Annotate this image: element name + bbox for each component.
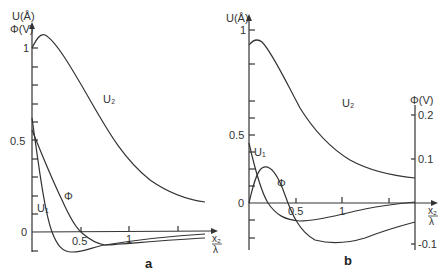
panel-a-label-u1: U₁ <box>37 202 49 214</box>
panel-a-x-axis <box>32 231 212 232</box>
panel-b-label-phi: Φ <box>277 177 286 189</box>
panel-b-curve-u2 <box>249 40 415 178</box>
panel-b-curve-u1 <box>249 143 415 221</box>
panel-a: U(Å) Φ(V) 1 0.5 0 0.5 1 x₂ λ U₂ U₁ Φ a <box>10 10 222 271</box>
panel-a-x-tick-05: 0.5 <box>72 235 87 247</box>
panel-b-r-tick-02: 0.2 <box>418 109 433 121</box>
panel-b-label-u1: U₁ <box>254 146 266 158</box>
panel-a-x-label-num: x₂ <box>212 233 221 244</box>
panel-a-curve-phi <box>32 130 205 245</box>
panel-b-x-tick-05: 0.5 <box>288 205 303 217</box>
figure: U(Å) Φ(V) 1 0.5 0 0.5 1 x₂ λ U₂ U₁ Φ a <box>0 0 447 275</box>
panel-a-tick-0: 0 <box>21 226 27 238</box>
panel-b-letter: b <box>344 253 352 268</box>
panel-a-label-phi: Φ <box>64 190 73 202</box>
panel-a-tick-1: 1 <box>23 42 29 54</box>
panel-b-y-label-left: U(Å) <box>226 12 249 24</box>
panel-b-y-label-right: Φ(V) <box>410 94 433 106</box>
panel-b-x-label-den: λ <box>429 216 434 227</box>
panel-b-r-tick-01: 0.1 <box>418 153 433 165</box>
panel-b-tick-1: 1 <box>240 24 246 36</box>
panel-a-y-ticks <box>32 48 38 251</box>
panel-b: U(Å) 1 0.5 0 Φ(V) 0.2 0.1 -0.1 0.5 1 x₂ … <box>226 12 438 268</box>
panel-a-x-label-den: λ <box>213 244 218 255</box>
panel-b-tick-05: 0.5 <box>229 129 244 141</box>
panel-b-label-u2: U₂ <box>342 97 354 109</box>
panel-b-y-ticks-left <box>249 30 255 238</box>
panel-a-letter: a <box>145 256 153 271</box>
panel-b-x-label-num: x₂ <box>428 205 437 216</box>
panel-b-tick-0: 0 <box>238 197 244 209</box>
panel-a-label-u2: U₂ <box>103 93 115 105</box>
panel-a-curve-u2 <box>32 35 205 202</box>
panel-a-y-label-u: U(Å) <box>12 10 35 22</box>
panel-a-tick-05: 0.5 <box>10 135 25 147</box>
panel-a-y-label-phi: Φ(V) <box>10 23 33 35</box>
panel-b-r-tick-m01: -0.1 <box>418 238 437 250</box>
